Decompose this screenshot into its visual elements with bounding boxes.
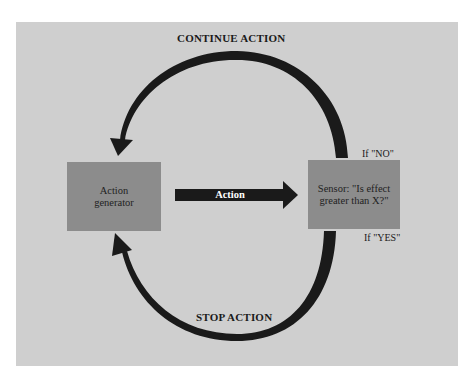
continue-action-label: CONTINUE ACTION	[177, 32, 285, 44]
continue-action-arc	[120, 51, 348, 158]
generator-label-line1: Action	[94, 185, 134, 197]
generator-label-line2: generator	[94, 197, 134, 209]
sensor-label-line2: greater than X?"	[318, 195, 390, 207]
sensor-box: Sensor: "Is effect greater than X?"	[308, 160, 400, 229]
stop-action-arc	[122, 231, 336, 341]
action-arrowhead-icon	[283, 181, 298, 209]
stop-action-label: STOP ACTION	[196, 311, 272, 323]
stop-arrowhead-icon	[112, 233, 132, 256]
sensor-label-line1: Sensor: "Is effect	[318, 183, 390, 195]
action-arrow-label: Action	[175, 189, 285, 201]
branch-yes-label: If "YES"	[364, 232, 400, 243]
continue-arrowhead-icon	[110, 138, 133, 156]
action-generator-box: Action generator	[67, 162, 161, 231]
branch-no-label: If "NO"	[362, 148, 394, 159]
